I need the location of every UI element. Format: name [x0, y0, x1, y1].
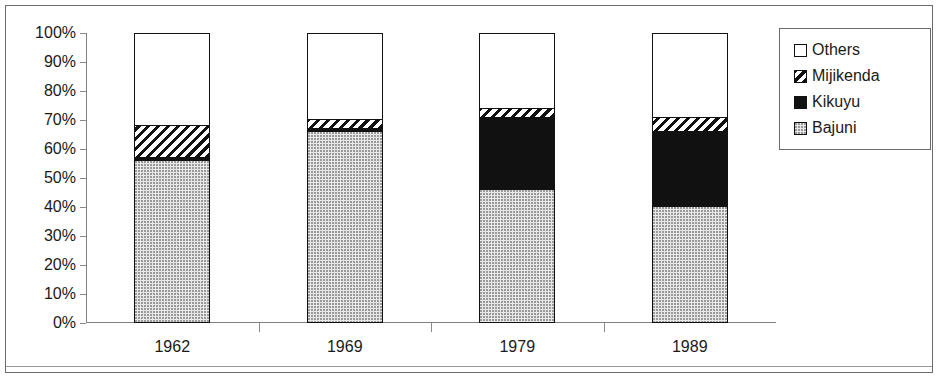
bars-layer — [86, 33, 776, 323]
bar-segment-others[interactable] — [653, 34, 727, 118]
y-axis-labels: 0%10%20%30%40%50%60%70%80%90%100% — [10, 33, 76, 323]
x-axis-category-label: 1962 — [154, 338, 190, 356]
x-axis-tick-mark — [431, 323, 432, 332]
y-axis-tick-mark — [80, 33, 86, 34]
stacked-bar[interactable] — [652, 33, 728, 323]
bar-segment-bajuni[interactable] — [135, 161, 209, 322]
y-axis-tick-label: 100% — [10, 25, 76, 41]
bar-segment-bajuni[interactable] — [308, 132, 382, 322]
bar-segment-mijikenda[interactable] — [135, 126, 209, 158]
x-axis-ticks — [86, 323, 776, 333]
y-axis-tick-mark — [80, 294, 86, 295]
bar-segment-bajuni[interactable] — [480, 190, 554, 322]
y-axis-tick-label: 30% — [10, 228, 76, 244]
legend-swatch-icon — [794, 44, 807, 57]
bar-segment-others[interactable] — [308, 34, 382, 120]
y-axis-tick-mark — [80, 265, 86, 266]
bar-slot — [604, 33, 777, 323]
y-axis-tick-mark — [80, 207, 86, 208]
y-axis-tick-mark — [80, 323, 86, 324]
bar-segment-mijikenda[interactable] — [480, 109, 554, 118]
stacked-bar-chart: 0%10%20%30%40%50%60%70%80%90%100% 196219… — [0, 0, 940, 381]
x-axis-category-label: 1979 — [499, 338, 535, 356]
bar-segment-kikuyu[interactable] — [653, 132, 727, 207]
y-axis-tick-label: 40% — [10, 199, 76, 215]
y-axis-tick-mark — [80, 149, 86, 150]
legend-swatch-icon — [794, 70, 807, 83]
y-axis-tick-label: 0% — [10, 315, 76, 331]
y-axis-tick-label: 50% — [10, 170, 76, 186]
legend-item-label: Kikuyu — [812, 93, 860, 111]
y-axis-tick-label: 70% — [10, 112, 76, 128]
x-axis-tick-mark — [604, 323, 605, 332]
bar-segment-others[interactable] — [135, 34, 209, 126]
legend-item-label: Others — [812, 41, 860, 59]
bottom-rule — [6, 366, 932, 367]
bar-segment-kikuyu[interactable] — [480, 118, 554, 190]
y-axis-tick-mark — [80, 62, 86, 63]
bar-segment-mijikenda[interactable] — [653, 118, 727, 132]
stacked-bar[interactable] — [307, 33, 383, 323]
bar-slot — [259, 33, 432, 323]
bar-segment-kikuyu[interactable] — [135, 158, 209, 161]
legend-item-kikuyu[interactable]: Kikuyu — [794, 89, 920, 115]
bar-segment-kikuyu[interactable] — [308, 129, 382, 132]
x-axis-category-label: 1989 — [672, 338, 708, 356]
legend-item-mijikenda[interactable]: Mijikenda — [794, 63, 920, 89]
bar-slot — [86, 33, 259, 323]
legend-swatch-icon — [794, 122, 807, 135]
chart-legend: OthersMijikendaKikuyuBajuni — [779, 28, 931, 150]
y-axis-tick-mark — [80, 91, 86, 92]
bar-slot — [431, 33, 604, 323]
legend-swatch-icon — [794, 96, 807, 109]
stacked-bar[interactable] — [479, 33, 555, 323]
legend-item-label: Bajuni — [812, 119, 856, 137]
stacked-bar[interactable] — [134, 33, 210, 323]
x-axis-category-label: 1969 — [327, 338, 363, 356]
y-axis-tick-label: 60% — [10, 141, 76, 157]
y-axis-tick-label: 90% — [10, 54, 76, 70]
y-axis-tick-mark — [80, 120, 86, 121]
legend-item-bajuni[interactable]: Bajuni — [794, 115, 920, 141]
y-axis-tick-mark — [80, 178, 86, 179]
y-axis-tick-mark — [80, 236, 86, 237]
bar-segment-bajuni[interactable] — [653, 207, 727, 322]
y-axis-tick-label: 80% — [10, 83, 76, 99]
y-axis-tick-label: 10% — [10, 286, 76, 302]
legend-item-others[interactable]: Others — [794, 37, 920, 63]
bar-segment-mijikenda[interactable] — [308, 120, 382, 129]
bar-segment-others[interactable] — [480, 34, 554, 109]
x-axis-labels: 1962196919791989 — [86, 338, 776, 364]
legend-item-label: Mijikenda — [812, 67, 880, 85]
x-axis-tick-mark — [259, 323, 260, 332]
y-axis-tick-label: 20% — [10, 257, 76, 273]
